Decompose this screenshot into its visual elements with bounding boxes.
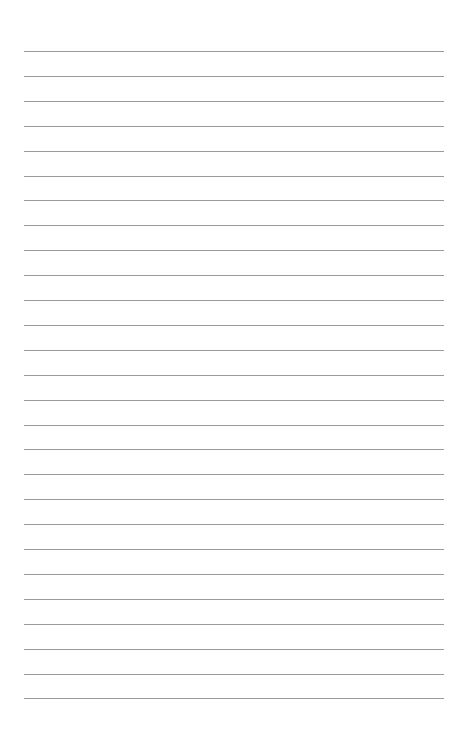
ruled-line: [24, 200, 444, 201]
ruled-line: [24, 151, 444, 152]
ruled-line: [24, 176, 444, 177]
ruled-line: [24, 300, 444, 301]
ruled-line: [24, 325, 444, 326]
ruled-line: [24, 524, 444, 525]
ruled-line: [24, 126, 444, 127]
ruled-line: [24, 574, 444, 575]
ruled-line: [24, 400, 444, 401]
ruled-line: [24, 474, 444, 475]
ruled-line: [24, 51, 444, 52]
ruled-line: [24, 674, 444, 675]
ruled-line: [24, 275, 444, 276]
ruled-line: [24, 350, 444, 351]
ruled-line: [24, 698, 444, 699]
ruled-line: [24, 101, 444, 102]
ruled-line: [24, 425, 444, 426]
ruled-line: [24, 375, 444, 376]
ruled-line: [24, 499, 444, 500]
lined-paper-page: [0, 0, 461, 732]
ruled-line: [24, 250, 444, 251]
ruled-line: [24, 549, 444, 550]
ruled-line: [24, 649, 444, 650]
ruled-line: [24, 449, 444, 450]
ruled-line: [24, 624, 444, 625]
ruled-line: [24, 76, 444, 77]
ruled-line: [24, 599, 444, 600]
ruled-line: [24, 225, 444, 226]
